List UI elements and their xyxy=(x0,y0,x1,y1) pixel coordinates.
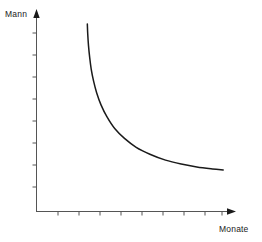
chart-figure: Mann Monate xyxy=(0,0,262,242)
x-axis-label: Monate xyxy=(219,224,249,234)
y-axis-arrowhead xyxy=(33,9,39,18)
x-axis-arrowhead xyxy=(227,208,236,214)
y-axis-label: Mann xyxy=(5,9,27,19)
chart-plot-area xyxy=(0,0,262,242)
x-axis-ticks xyxy=(58,212,222,216)
y-axis-ticks xyxy=(33,33,37,187)
data-curve-mann-monate xyxy=(87,24,223,170)
